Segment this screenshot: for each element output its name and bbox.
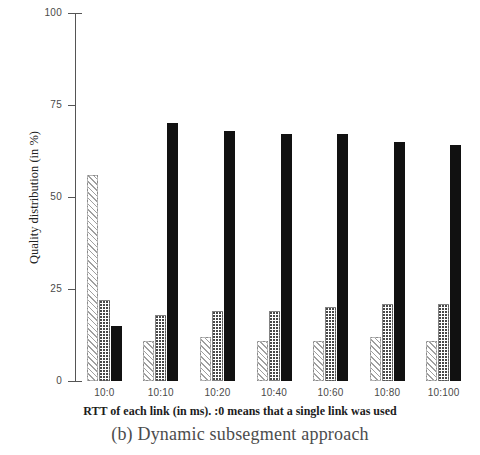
- bar-group: [87, 13, 122, 381]
- figure-panel: 0255075100 Quality distribution (in %) 1…: [0, 0, 480, 455]
- bar-medium-quality-10:100: [438, 304, 449, 381]
- y-tick-100: [68, 13, 75, 14]
- bar-high-quality-10:10: [167, 123, 178, 381]
- x-tick-label-10:0: 10:0: [74, 387, 134, 398]
- bar-medium-quality-10:10: [155, 315, 166, 381]
- bar-group: [200, 13, 235, 381]
- bar-group: [257, 13, 292, 381]
- x-tick-label-10:100: 10:100: [414, 387, 474, 398]
- plot-area: [76, 13, 472, 381]
- bar-group: [370, 13, 405, 381]
- x-axis-title: RTT of each link (in ms). :0 means that …: [0, 404, 480, 419]
- x-axis-tick-labels: 10:010:1010:2010:4010:6010:8010:100: [0, 387, 480, 403]
- y-axis-title: Quality distribution (in %): [27, 78, 42, 318]
- bar-low-quality-10:80: [370, 337, 381, 381]
- bar-medium-quality-10:40: [269, 311, 280, 381]
- y-tick-0: [68, 381, 75, 382]
- x-tick-label-10:40: 10:40: [244, 387, 304, 398]
- bar-low-quality-10:20: [200, 337, 211, 381]
- y-tick-label-100: 100: [22, 7, 62, 18]
- y-tick-label-0: 0: [22, 375, 62, 386]
- bar-group: [313, 13, 348, 381]
- y-tick-75: [68, 105, 75, 106]
- bar-high-quality-10:40: [281, 134, 292, 381]
- bar-low-quality-10:0: [87, 175, 98, 381]
- y-tick-25: [68, 289, 75, 290]
- bar-group: [426, 13, 461, 381]
- bar-low-quality-10:10: [143, 341, 154, 381]
- bar-high-quality-10:100: [450, 145, 461, 381]
- bar-low-quality-10:40: [257, 341, 268, 381]
- bar-high-quality-10:0: [111, 326, 122, 381]
- bar-high-quality-10:60: [337, 134, 348, 381]
- bar-medium-quality-10:80: [382, 304, 393, 381]
- bar-high-quality-10:20: [224, 131, 235, 381]
- figure-caption: (b) Dynamic subsegment approach: [0, 424, 480, 445]
- bar-medium-quality-10:60: [325, 307, 336, 381]
- bar-low-quality-10:100: [426, 341, 437, 381]
- bar-medium-quality-10:20: [212, 311, 223, 381]
- x-tick-label-10:20: 10:20: [187, 387, 247, 398]
- x-tick-label-10:10: 10:10: [131, 387, 191, 398]
- bar-group: [143, 13, 178, 381]
- x-tick-label-10:80: 10:80: [357, 387, 417, 398]
- y-tick-50: [68, 197, 75, 198]
- y-axis-cap-bottom: [76, 381, 82, 382]
- bar-medium-quality-10:0: [99, 300, 110, 381]
- bar-low-quality-10:60: [313, 341, 324, 381]
- x-tick-label-10:60: 10:60: [301, 387, 361, 398]
- bar-high-quality-10:80: [394, 142, 405, 381]
